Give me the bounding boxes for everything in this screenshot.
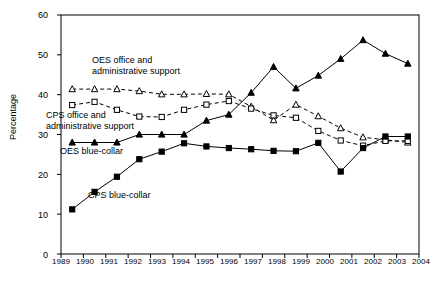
data-point-marker — [316, 128, 321, 133]
data-point-marker — [92, 99, 97, 104]
data-point-marker — [338, 138, 343, 143]
data-point-marker — [315, 113, 321, 119]
data-point-marker — [271, 148, 276, 153]
data-point-marker — [405, 134, 410, 139]
data-point-marker — [114, 174, 119, 179]
data-point-marker — [293, 115, 298, 120]
data-point-marker — [159, 149, 164, 154]
data-point-marker — [360, 37, 366, 43]
annotation-line-1: CPS office and — [46, 110, 134, 121]
data-point-marker — [271, 113, 276, 118]
annotation-oes-office: OES office and administrative support — [92, 55, 180, 77]
data-point-marker — [293, 101, 299, 107]
data-point-marker — [159, 114, 164, 119]
annotation-oes-blue-collar: OES blue-collar — [60, 146, 123, 157]
data-point-marker — [360, 145, 365, 150]
data-point-marker — [137, 157, 142, 162]
annotation-cps-office: CPS office and administrative support — [46, 110, 134, 132]
data-point-marker — [204, 144, 209, 149]
data-point-marker — [293, 149, 298, 154]
data-point-marker — [270, 63, 276, 69]
data-point-marker — [181, 107, 186, 112]
data-point-marker — [316, 140, 321, 145]
data-point-marker — [226, 98, 231, 103]
data-point-marker — [249, 147, 254, 152]
data-point-marker — [181, 141, 186, 146]
data-point-marker — [338, 169, 343, 174]
annotation-line-1: CPS blue-collar — [88, 190, 151, 201]
data-point-marker — [382, 50, 388, 56]
data-point-marker — [70, 102, 75, 107]
data-point-marker — [70, 207, 75, 212]
data-point-marker — [337, 125, 343, 131]
data-point-marker — [137, 114, 142, 119]
data-point-marker — [405, 60, 411, 66]
annotation-line-2: administrative support — [46, 121, 134, 132]
data-point-marker — [249, 106, 254, 111]
annotation-cps-blue-collar: CPS blue-collar — [88, 190, 151, 201]
annotation-line-2: administrative support — [92, 66, 180, 77]
data-point-marker — [383, 134, 388, 139]
data-point-marker — [226, 145, 231, 150]
annotation-line-1: OES blue-collar — [60, 146, 123, 157]
data-point-marker — [315, 72, 321, 78]
data-point-marker — [204, 102, 209, 107]
annotation-line-1: OES office and — [92, 55, 180, 66]
